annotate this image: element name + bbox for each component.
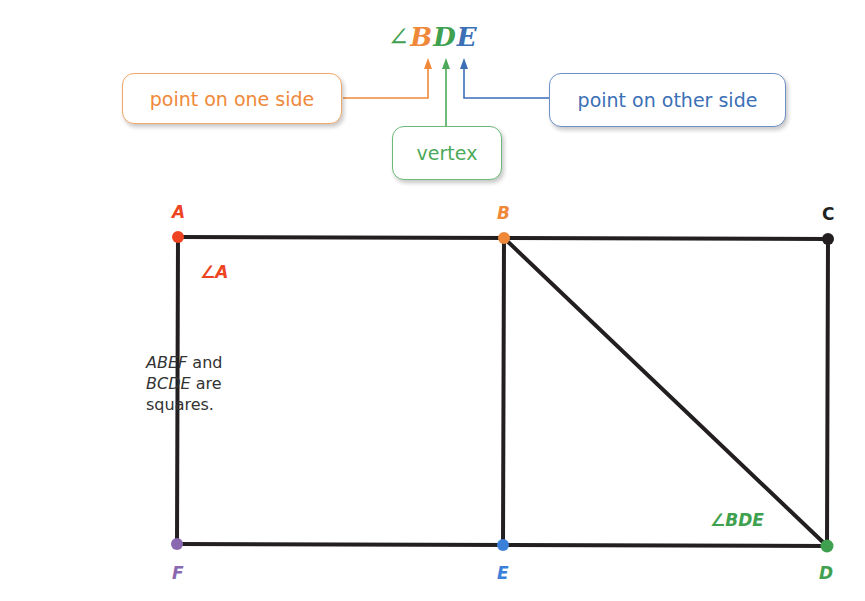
angle-a-label: ∠A <box>200 262 228 282</box>
angle-bde-label: ∠BDE <box>710 510 764 530</box>
point-a <box>172 231 184 243</box>
label-a: A <box>172 202 185 222</box>
segment-bd <box>504 238 827 546</box>
note-abef: ABEF <box>146 353 187 372</box>
point-e <box>497 539 509 551</box>
label-d: D <box>819 563 833 583</box>
segment-be <box>503 238 504 545</box>
note-text: squares. <box>146 394 222 415</box>
note-text: are <box>191 374 222 393</box>
note-text: and <box>187 353 222 372</box>
label-f: F <box>172 563 184 583</box>
point-d <box>821 540 834 553</box>
note-bcde: BCDE <box>146 374 191 393</box>
point-f <box>171 538 183 550</box>
squares-note: ABEF and BCDE are squares. <box>146 352 222 415</box>
label-c: C <box>822 204 834 224</box>
label-e: E <box>497 563 509 583</box>
point-c <box>822 233 834 245</box>
point-b <box>498 232 510 244</box>
segment-cd <box>827 239 828 546</box>
label-b: B <box>497 203 510 223</box>
